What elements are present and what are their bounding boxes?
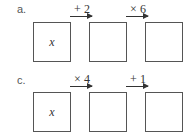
answer-box[interactable] [89, 22, 127, 62]
arrow-icon [126, 16, 148, 17]
variable-text: x [34, 35, 70, 50]
arrow-icon [70, 16, 92, 17]
answer-box[interactable] [145, 92, 183, 132]
problem-label: c. [17, 74, 26, 86]
answer-box[interactable] [89, 92, 127, 132]
input-box: x [33, 92, 71, 132]
problem-label: a. [17, 3, 26, 15]
arrow-icon [70, 86, 92, 87]
arrow-icon [126, 86, 148, 87]
input-box: x [33, 22, 71, 62]
answer-box[interactable] [145, 22, 183, 62]
variable-text: x [34, 105, 70, 120]
